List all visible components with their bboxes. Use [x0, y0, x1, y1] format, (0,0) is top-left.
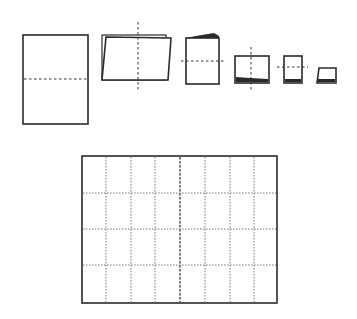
step-5-folded [277, 56, 308, 83]
step-3-folded [181, 33, 224, 84]
unfolded-grid [82, 156, 277, 303]
front-page [102, 37, 171, 80]
booklet-outline [284, 56, 302, 83]
step-4-folded [235, 47, 269, 92]
stacked-pages-bottom [285, 79, 301, 82]
step-6-final [317, 68, 336, 83]
folding-diagram [0, 0, 357, 319]
step-2-folded [102, 22, 171, 91]
step-1-sheet [23, 35, 88, 124]
stacked-pages-bottom [317, 79, 335, 82]
